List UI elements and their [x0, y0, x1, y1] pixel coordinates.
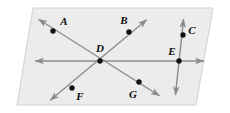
point-f: [69, 85, 74, 90]
point-e: [176, 58, 181, 63]
point-a-label: A: [60, 16, 67, 27]
point-d-label: D: [96, 43, 104, 54]
point-g-label: G: [129, 89, 137, 100]
point-a: [50, 28, 55, 33]
point-b: [126, 29, 131, 34]
point-f-label: F: [76, 91, 83, 102]
geometry-figure: ABCDEFG: [0, 0, 230, 113]
point-b-label: B: [120, 15, 127, 26]
point-d: [97, 58, 102, 63]
point-c: [180, 32, 185, 37]
point-g: [136, 79, 141, 84]
point-e-label: E: [168, 46, 175, 57]
point-c-label: C: [188, 25, 195, 36]
geometry-canvas: [0, 0, 230, 113]
